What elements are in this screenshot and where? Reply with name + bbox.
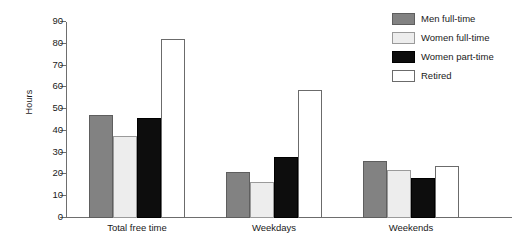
bar-weekends-men-full-time xyxy=(363,161,387,218)
y-tick-60: 60 xyxy=(66,86,67,87)
y-tick-90: 90 xyxy=(66,21,67,22)
legend-item-women-full-time[interactable]: Women full-time xyxy=(392,29,522,46)
legend-item-retired[interactable]: Retired xyxy=(392,67,522,84)
y-tick-label: 10 xyxy=(52,189,63,200)
y-tick-50: 50 xyxy=(66,108,67,109)
legend-swatch-icon xyxy=(392,13,415,25)
bar-weekdays-women-full-time xyxy=(250,182,274,218)
y-tick-label: 50 xyxy=(52,102,63,113)
y-tick-label: 60 xyxy=(52,80,63,91)
y-tick-label: 80 xyxy=(52,37,63,48)
bar-group-weekdays xyxy=(226,22,322,218)
legend-label: Retired xyxy=(421,70,452,81)
y-tick-label: 90 xyxy=(52,15,63,26)
legend-swatch-icon xyxy=(392,51,415,63)
y-axis-line xyxy=(66,22,67,218)
y-tick-label: 0 xyxy=(58,211,63,222)
bar-chart: Hours 0102030405060708090 Total free tim… xyxy=(0,0,523,251)
bar-total-free-time-women-full-time xyxy=(113,136,137,218)
legend-label: Women full-time xyxy=(421,32,489,43)
legend-label: Men full-time xyxy=(421,13,475,24)
y-tick-30: 30 xyxy=(66,152,67,153)
bar-weekdays-men-full-time xyxy=(226,172,250,218)
y-tick-40: 40 xyxy=(66,130,67,131)
bar-weekends-women-full-time xyxy=(387,170,411,218)
y-tick-label: 20 xyxy=(52,167,63,178)
y-axis-label: Hours xyxy=(24,72,34,132)
legend-swatch-icon xyxy=(392,32,415,44)
y-tick-label: 70 xyxy=(52,59,63,70)
bar-total-free-time-retired xyxy=(161,39,185,218)
legend-label: Women part-time xyxy=(421,51,494,62)
y-tick-10: 10 xyxy=(66,195,67,196)
y-tick-80: 80 xyxy=(66,43,67,44)
bar-group-total-free-time xyxy=(89,22,185,218)
y-tick-20: 20 xyxy=(66,173,67,174)
y-tick-label: 30 xyxy=(52,146,63,157)
bar-total-free-time-women-part-time xyxy=(137,118,161,218)
category-label-total-free-time: Total free time xyxy=(57,222,217,233)
y-tick-70: 70 xyxy=(66,65,67,66)
y-tick-label: 40 xyxy=(52,124,63,135)
category-label-weekdays: Weekdays xyxy=(194,222,354,233)
legend-item-men-full-time[interactable]: Men full-time xyxy=(392,10,522,27)
bar-weekends-women-part-time xyxy=(411,178,435,218)
bar-weekends-retired xyxy=(435,166,459,218)
bar-weekdays-retired xyxy=(298,90,322,218)
legend-swatch-icon xyxy=(392,70,415,82)
bar-weekdays-women-part-time xyxy=(274,157,298,218)
legend-item-women-part-time[interactable]: Women part-time xyxy=(392,48,522,65)
y-tick-0: 0 xyxy=(66,217,67,218)
legend: Men full-timeWomen full-timeWomen part-t… xyxy=(392,10,522,86)
category-label-weekends: Weekends xyxy=(331,222,491,233)
bar-total-free-time-men-full-time xyxy=(89,115,113,218)
